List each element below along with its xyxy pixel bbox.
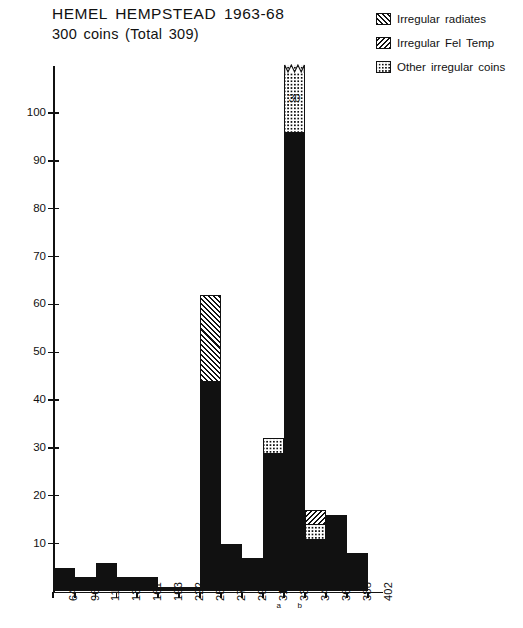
bar-348 [305,510,326,591]
bar-segment-solid [242,558,263,591]
bar-275 [221,544,242,592]
bar-segment-solid [263,453,284,592]
bar-segment-solid [305,539,326,592]
y-tick-80 [48,208,59,209]
y-tick-20 [48,495,59,496]
bar-segment-solid [347,553,368,591]
y-tick-40 [48,399,59,400]
bar-296 [242,558,263,591]
y-tick-60 [48,304,59,305]
x-tick-161 [136,592,137,598]
bar-segment-solid [137,577,158,591]
bar-96 [75,577,96,591]
y-tick-100 [48,112,59,113]
y-tick-label: 40 [0,394,46,405]
x-tick-296 [241,592,242,598]
y-tick-label: 80 [0,203,46,214]
x-tick-275 [220,592,221,598]
axis-break-zigzag-icon [284,64,305,73]
bar-161 [137,577,158,591]
bar-segment-solid [96,563,117,592]
x-tick-222 [178,592,179,598]
x-tick-117 [95,592,96,598]
bar-segment-other [263,438,284,452]
bar-segment-solid [284,132,305,591]
bar-259 [200,295,221,592]
y-tick-30 [48,447,59,448]
x-tick-317 [262,592,263,598]
plot-area: 102030405060708090100 649611713816119322… [0,0,523,628]
bar-segment-solid [221,544,242,592]
x-tick-348 [304,592,305,598]
bar-segment-feltemp [305,510,326,524]
y-tick-90 [48,160,59,161]
y-tick-10 [48,543,59,544]
bar-222 [179,587,200,592]
x-tick-138 [116,592,117,598]
bar-117 [96,563,117,592]
x-tick-259 [199,592,200,598]
y-tick-50 [48,352,59,353]
bar-segment-solid [200,381,221,592]
x-tick-64 [52,592,53,598]
y-tick-label: 90 [0,155,46,166]
x-tick-330 [283,592,284,598]
bar-64 [53,568,75,592]
bar-segment-solid [75,577,96,591]
bar-317 [263,438,284,591]
bar-value-label: 30 [284,93,305,104]
bar-segment-solid [326,515,347,592]
bar-segment-radiates [200,295,221,381]
y-tick-label: 20 [0,490,46,501]
y-tick-label: 10 [0,538,46,549]
y-axis-line [53,66,55,593]
chart-root: HEMEL HEMPSTEAD 1963-68 300 coins (Total… [0,0,523,628]
bar-segment-solid [158,587,179,592]
bar-193 [158,587,179,592]
bar-138 [117,577,138,591]
x-tick-193 [157,592,158,598]
y-tick-label: 50 [0,346,46,357]
x-sub-label-b: b [298,601,302,610]
x-tick-388 [346,592,347,598]
bar-segment-solid [53,568,75,592]
bar-364 [326,515,347,592]
x-tick-96 [74,592,75,598]
bar-330: 30 [284,65,305,591]
y-tick-label: 70 [0,251,46,262]
bar-segment-other [305,524,326,538]
y-tick-70 [48,256,59,257]
bar-388 [347,553,368,591]
x-sub-label-a: a [277,601,281,610]
y-tick-label: 30 [0,442,46,453]
y-tick-label: 100 [0,107,46,118]
y-tick-label: 60 [0,298,46,309]
bar-segment-solid [179,587,200,592]
bar-segment-solid [117,577,138,591]
x-tick-364 [325,592,326,598]
x-tick-402 [367,592,368,598]
x-tick-label: 402 [382,582,394,601]
